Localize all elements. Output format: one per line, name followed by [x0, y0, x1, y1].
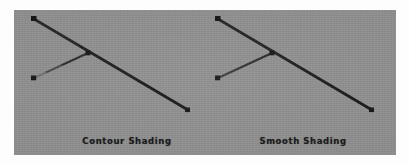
vertex-dot-right-end-contour [185, 108, 190, 113]
edge-lower-diagonal-contour [34, 53, 88, 78]
smooth-edges [218, 19, 372, 155]
caption-contour-shading: Contour Shading [52, 136, 202, 146]
vertex-dot-center-contour [86, 51, 91, 56]
vertex-dot-lower-left-contour [31, 76, 36, 81]
vertex-dot-right-end-smooth [369, 108, 374, 113]
edge-upper-diagonal-smooth [218, 19, 372, 110]
contour-edges [34, 19, 188, 155]
edge-lower-diagonal-smooth [218, 53, 272, 78]
vertex-dot-center-smooth [270, 51, 275, 56]
vertex-dot-top-left-smooth [215, 16, 221, 21]
shading-comparison-figure: Contour Shading Smooth Shading [0, 0, 409, 163]
vertex-dot-top-left-contour [31, 16, 37, 21]
vertex-dot-lower-left-smooth [215, 76, 220, 81]
caption-smooth-shading: Smooth Shading [228, 136, 378, 146]
edge-upper-diagonal-contour [34, 19, 188, 110]
render-panel: Contour Shading Smooth Shading [14, 10, 396, 155]
contour-shading-render [14, 10, 396, 155]
